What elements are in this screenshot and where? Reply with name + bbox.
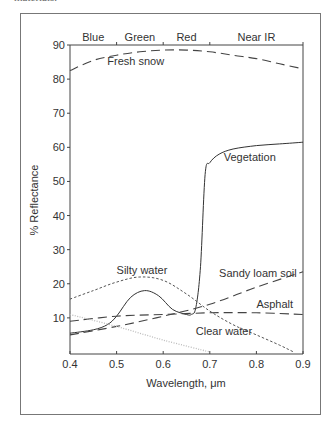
annotation-label: Fresh snow — [107, 55, 164, 67]
y-tick-label: 60 — [53, 141, 65, 153]
y-tick-label: 40 — [53, 210, 65, 222]
y-tick-label: 50 — [53, 175, 65, 187]
x-tick-label: 0.9 — [295, 358, 310, 370]
annotation-label: Silty water — [117, 264, 168, 276]
y-axis-label: % Reflectance — [28, 165, 40, 236]
band-label: Red — [176, 31, 196, 43]
y-tick-label: 90 — [53, 39, 65, 51]
y-tick-label: 70 — [53, 107, 65, 119]
axes: 0.40.50.60.70.80.9102030405060708090 — [53, 39, 311, 370]
y-tick-label: 20 — [53, 278, 65, 290]
annotation-label: Sandy loam soil — [219, 267, 297, 279]
x-tick-label: 0.4 — [62, 358, 77, 370]
annotation-label: Clear water — [196, 325, 253, 337]
band-labels: BlueGreenRedNear IR — [82, 31, 303, 45]
annotation-label: Vegetation — [224, 151, 276, 163]
series-clear-water — [70, 315, 210, 353]
series-fresh-snow — [70, 50, 303, 71]
band-label: Blue — [82, 31, 104, 43]
x-tick-label: 0.5 — [109, 358, 124, 370]
series-silty-water — [70, 277, 294, 352]
x-tick-label: 0.7 — [202, 358, 217, 370]
y-tick-label: 80 — [53, 73, 65, 85]
series-annotations: Fresh snowVegetationSilty waterSandy loa… — [107, 55, 296, 336]
reflectance-chart: 0.40.50.60.70.80.9102030405060708090 Blu… — [0, 0, 332, 430]
band-label: Near IR — [237, 31, 275, 43]
x-tick-label: 0.6 — [156, 358, 171, 370]
band-label: Green — [125, 31, 156, 43]
y-tick-label: 30 — [53, 244, 65, 256]
y-tick-label: 10 — [53, 312, 65, 324]
series-asphalt — [70, 313, 303, 322]
x-axis-label: Wavelength, μm — [146, 377, 225, 389]
annotation-label: Asphalt — [256, 298, 293, 310]
x-tick-label: 0.8 — [249, 358, 264, 370]
